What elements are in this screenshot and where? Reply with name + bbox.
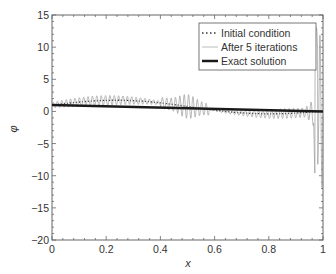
- y-tick-label: −20: [31, 234, 49, 246]
- x-tick-label: 0.6: [207, 243, 222, 255]
- x-tick-label: 0.8: [261, 243, 276, 255]
- y-tick-label: −15: [31, 202, 49, 214]
- x-tick-label: 1: [320, 243, 326, 255]
- legend-label-initial: Initial condition: [221, 27, 291, 39]
- y-tick-label: 10: [37, 41, 49, 53]
- legend: Initial condition After 5 iterations Exa…: [199, 23, 316, 70]
- y-tick-label: 0: [43, 105, 49, 117]
- line-chart: 151050−5−10−15−20 00.20.40.60.81 x φ Ini…: [0, 0, 336, 274]
- y-tick-label: 15: [37, 9, 49, 21]
- x-tick-label: 0: [49, 243, 55, 255]
- y-tick-label: −10: [31, 170, 49, 182]
- legend-label-iterations: After 5 iterations: [221, 41, 297, 53]
- y-tick-label: −5: [37, 138, 49, 150]
- x-tick-labels: 00.20.40.60.81: [49, 243, 326, 255]
- x-axis-label: x: [184, 257, 191, 269]
- x-tick-label: 0.4: [153, 243, 168, 255]
- legend-label-exact: Exact solution: [221, 55, 287, 67]
- y-tick-labels: 151050−5−10−15−20: [31, 9, 49, 246]
- y-axis-label: φ: [7, 125, 19, 132]
- y-tick-label: 5: [43, 73, 49, 85]
- x-tick-label: 0.2: [99, 243, 114, 255]
